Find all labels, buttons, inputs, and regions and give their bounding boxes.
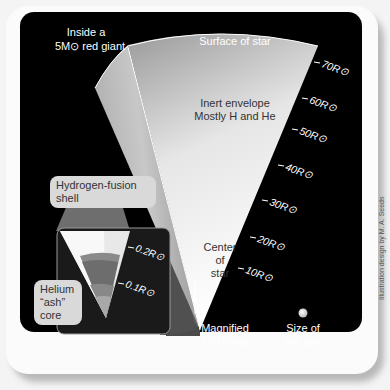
surface-label: Surface of star [180,35,290,48]
illustration-credit: Illustration design by M. A. Seeds [378,197,385,301]
magnified-line1: Magnified [195,322,255,335]
shell-line1: Hydrogen-fusion [56,179,150,192]
sun-line1: Size of [275,322,331,335]
center-line1: Center [200,241,240,254]
sun-line2: the sun [275,335,331,348]
core-line2: “ash” [40,296,76,309]
helium-core-callout: Helium “ash” core [34,280,82,325]
figure-card: Inside a 5M⊙ red giant Surface of star I… [0,0,390,390]
core-line3: core [40,309,76,322]
magnified-line2: 100 times [195,335,255,348]
envelope-line2: Mostly H and He [180,110,290,123]
title-line2: 5M⊙ red giant [40,40,140,53]
title-line1: Inside a [46,26,126,39]
envelope-line1: Inert envelope [180,97,290,110]
center-line2: of [200,254,240,267]
core-line1: Helium [40,283,76,296]
sun-size-icon [299,309,308,318]
center-line3: star [200,267,240,280]
hydrogen-shell-callout: Hydrogen-fusion shell [50,176,156,208]
shell-line2: shell [56,192,150,205]
